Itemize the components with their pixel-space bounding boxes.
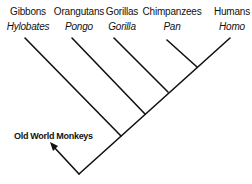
trunk-branch: [79, 38, 230, 174]
branch-hylobates: [25, 38, 121, 136]
branch-pan: [167, 40, 197, 67]
cladogram: [0, 0, 252, 184]
branch-outgroup: [53, 146, 79, 174]
branch-pongo: [72, 38, 145, 114]
branch-gorilla: [114, 38, 168, 92]
